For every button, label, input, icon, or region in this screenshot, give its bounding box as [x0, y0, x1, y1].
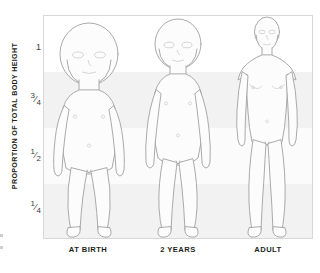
y-tick-fraction-one-quarter: 1⁄4 — [31, 201, 41, 212]
y-tick-fraction-one-half: 1⁄2 — [31, 149, 41, 160]
torso — [61, 90, 117, 174]
y-tick-label-three-quarters: 3⁄4 — [25, 92, 41, 107]
left-foot — [67, 227, 80, 237]
y-tick-denominator-one-quarter: 4 — [37, 206, 41, 215]
right-leg — [179, 159, 197, 232]
y-tick-label-one-half: 1⁄2 — [25, 148, 41, 163]
right-leg — [91, 168, 110, 232]
left-leg — [67, 168, 86, 232]
edge-mark-upper — [0, 234, 3, 237]
x-label-2-years: 2 YEARS — [133, 243, 223, 261]
y-tick-numerator-one-half: 1 — [31, 147, 35, 156]
y-tick-label-one-quarter: 1⁄4 — [25, 200, 41, 215]
infant-body-illustration — [47, 16, 131, 238]
cropped-edge-marks — [0, 232, 8, 258]
x-label-at-birth: AT BIRTH — [43, 243, 133, 261]
body-proportions-figure: PROPORTION OF TOTAL BODY HEIGHT 1 3⁄4 1⁄… — [0, 0, 320, 273]
y-tick-label-1: 1 — [25, 43, 41, 52]
figure-row — [44, 16, 312, 238]
x-axis-labels: AT BIRTH 2 YEARS ADULT — [43, 243, 313, 261]
y-axis-title: PROPORTION OF TOTAL BODY HEIGHT — [0, 0, 30, 232]
right-foot — [273, 227, 286, 237]
y-tick-denominator-three-quarters: 4 — [37, 98, 41, 107]
adult-body-illustration — [229, 16, 305, 238]
right-foot — [98, 227, 111, 237]
torso — [153, 74, 203, 165]
edge-mark-lower — [0, 246, 3, 249]
plot-area — [43, 15, 313, 239]
left-leg — [159, 159, 177, 232]
y-tick-numerator-one-quarter: 1 — [31, 199, 35, 208]
y-tick-numerator-three-quarters: 3 — [31, 91, 35, 100]
y-tick-value-1: 1 — [36, 42, 41, 52]
right-leg — [268, 140, 285, 232]
y-axis-title-text: PROPORTION OF TOTAL BODY HEIGHT — [11, 43, 19, 189]
left-foot — [248, 227, 261, 237]
figure-at-birth — [44, 16, 133, 238]
right-foot — [185, 227, 198, 237]
figure-adult — [223, 16, 312, 238]
y-tick-denominator-one-half: 2 — [37, 154, 41, 163]
left-arm — [237, 72, 248, 146]
left-foot — [158, 227, 171, 237]
left-leg — [249, 140, 266, 232]
figure-2-years — [133, 16, 222, 238]
right-arm — [286, 72, 297, 146]
toddler-body-illustration — [138, 16, 218, 238]
y-tick-fraction-three-quarters: 3⁄4 — [31, 93, 41, 104]
x-label-adult: ADULT — [223, 243, 313, 261]
